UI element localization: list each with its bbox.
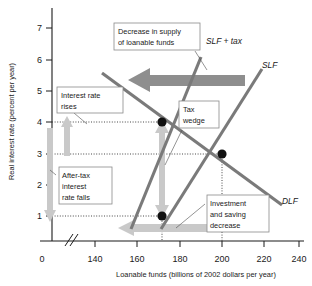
callout-invest-line1: Investment — [210, 199, 246, 208]
point-after-tax-equilibrium — [157, 117, 166, 126]
callout-decrease-line1: Decrease in supply — [118, 27, 181, 36]
y-tick-label-2: 2 — [37, 180, 42, 190]
callout-invest-line3: decrease — [210, 221, 240, 230]
callout-wedge-line2: wedge — [182, 116, 205, 125]
curve-label-slf-plus-tax: SLF + tax — [206, 36, 243, 46]
y-axis-title: Real interest rate (percent per year) — [7, 63, 16, 180]
x-tick-label-140: 140 — [87, 254, 102, 264]
callout-falls-line2: interest — [62, 182, 86, 191]
x-tick-label-240: 240 — [291, 254, 306, 264]
loanable-funds-market-figure: 1 2 3 4 5 6 7 0 140 160 180 200 220 240 … — [0, 0, 312, 286]
origin-label: 0 — [39, 254, 44, 264]
point-original-equilibrium — [217, 149, 226, 158]
callout-decrease-line2: of loanable funds — [118, 38, 175, 47]
callout-rises-line2: rises — [61, 102, 77, 111]
callout-rises-line1: Interest rate — [61, 91, 100, 100]
callout-falls-line1: After-tax — [62, 171, 90, 180]
x-tick-label-160: 160 — [129, 254, 144, 264]
y-tick-label-3: 3 — [37, 149, 42, 159]
x-tick-label-220: 220 — [256, 254, 271, 264]
callout-falls-line3: rate falls — [62, 193, 90, 202]
y-tick-label-1: 1 — [37, 211, 42, 221]
x-tick-label-200: 200 — [214, 254, 229, 264]
x-axis-title: Loanable funds (billions of 2002 dollars… — [116, 270, 276, 279]
y-tick-label-6: 6 — [37, 55, 42, 65]
callout-invest-line2: and saving — [210, 210, 246, 219]
y-tick-label-7: 7 — [37, 23, 42, 33]
callout-after-tax-rate-falls: After-tax interest rate falls — [50, 167, 112, 204]
point-after-tax-interest-received — [157, 211, 166, 220]
curve-label-dlf: DLF — [282, 196, 299, 206]
curve-label-slf: SLF — [262, 60, 278, 70]
y-tick-label-4: 4 — [37, 117, 42, 127]
y-tick-label-5: 5 — [37, 86, 42, 96]
callout-wedge-line1: Tax — [183, 105, 195, 114]
x-tick-label-180: 180 — [172, 254, 187, 264]
